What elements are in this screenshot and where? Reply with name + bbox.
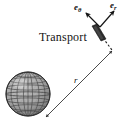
radius-dimension-line [46, 51, 112, 117]
e-theta-arrow [86, 13, 100, 27]
e-r-arrow [100, 11, 114, 27]
shaded-grid-sphere [6, 72, 50, 118]
figure-canvas [0, 0, 127, 125]
transport-vector-figure: Transport eθ er r [0, 0, 127, 125]
